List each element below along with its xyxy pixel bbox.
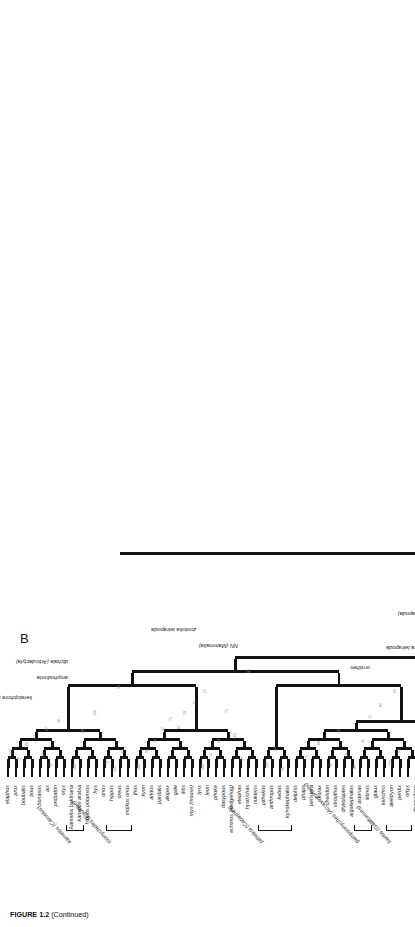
- branch-h: [187, 750, 190, 759]
- tip-branch: [351, 768, 354, 777]
- tip-branch: [327, 768, 330, 777]
- figure-caption: FIGURE 1.2 (Continued): [10, 910, 89, 919]
- tip-branch: [175, 768, 178, 777]
- branch-h: [99, 732, 102, 741]
- branch-h: [175, 759, 178, 768]
- support-value: 52: [204, 689, 208, 693]
- branch-h: [379, 750, 382, 759]
- support-value: 99: [50, 763, 54, 767]
- tip-label: pardalis: [157, 785, 162, 804]
- branch-h: [227, 732, 230, 741]
- branch-h: [191, 759, 194, 768]
- tip-branch: [271, 768, 274, 777]
- branch-h: [55, 759, 58, 768]
- tip-label: boubalis: [21, 785, 26, 805]
- branch-h: [167, 759, 170, 768]
- branch-h: [339, 741, 342, 750]
- branch-h: [107, 750, 110, 759]
- backbone-v: [235, 656, 415, 659]
- tip-label: arktos: [149, 785, 154, 800]
- tip-branch: [191, 768, 194, 777]
- branch-h: [399, 759, 402, 768]
- tip-label: chelidon: [325, 785, 330, 805]
- outgroup-connector: [120, 552, 415, 555]
- clade-label: NN (Mammalia): [199, 643, 238, 649]
- branch-h: [211, 741, 214, 750]
- tip-branch: [95, 768, 98, 777]
- support-value: 93: [274, 747, 278, 751]
- clade-label: amphodonta: [37, 675, 68, 681]
- figure-caption-text: (Continued): [51, 910, 89, 919]
- branch-h: [83, 741, 86, 750]
- support-value: 94: [330, 763, 334, 767]
- tip-branch: [383, 768, 386, 777]
- branch-h: [7, 759, 10, 768]
- branch-h: [39, 759, 42, 768]
- tip-branch: [143, 768, 146, 777]
- tip-label: prox: [13, 785, 18, 796]
- support-value: 85: [380, 703, 384, 707]
- branch-h: [119, 759, 122, 768]
- support-value: 97: [46, 727, 50, 731]
- branch-h: [151, 759, 154, 768]
- support-value: 96: [282, 767, 286, 771]
- tip-branch: [263, 768, 266, 777]
- backbone-h: [195, 687, 198, 732]
- branch-h: [411, 750, 414, 759]
- branch-h: [315, 750, 318, 759]
- tip-branch: [127, 768, 130, 777]
- tip-label: delphis: [293, 785, 298, 802]
- branch-h: [407, 759, 410, 768]
- group-bracket: [66, 825, 84, 831]
- tip-branch: [343, 768, 346, 777]
- branch-h: [59, 750, 62, 759]
- support-value: 63: [234, 733, 238, 737]
- tip-label: oryx: [61, 785, 66, 795]
- branch-h: [127, 759, 130, 768]
- branch-h: [31, 759, 34, 768]
- tip-branch: [47, 768, 50, 777]
- support-value: 100: [114, 766, 118, 772]
- branch-h: [283, 750, 286, 759]
- tip-branch: [167, 768, 170, 777]
- branch-h: [307, 741, 310, 750]
- support-value: 78: [338, 729, 342, 733]
- tip-label: kyon: [141, 785, 146, 796]
- branch-h: [331, 750, 334, 759]
- tip-branch: [39, 768, 42, 777]
- support-value: 91: [398, 749, 402, 753]
- branch-h: [343, 759, 346, 768]
- panel-letter: B: [20, 631, 29, 646]
- support-value: 100: [42, 752, 46, 758]
- branch-v: [356, 720, 415, 723]
- branch-h: [363, 750, 366, 759]
- support-value: 64: [218, 739, 222, 743]
- branch-h: [171, 750, 174, 759]
- clade-label: zootoka tetrapoda: [151, 627, 196, 633]
- tip-branch: [215, 768, 218, 777]
- group-bracket: [386, 825, 412, 831]
- tip-branch: [391, 768, 394, 777]
- tip-label: perdix: [397, 785, 402, 800]
- clade-label: ornithes: [350, 665, 370, 671]
- branch-h: [255, 759, 258, 768]
- support-value: 82: [248, 669, 252, 673]
- branch-h: [231, 759, 234, 768]
- tip-label: hys: [93, 785, 98, 793]
- tip-label: nukteris: [253, 785, 258, 804]
- tip-label: elaphos: [5, 785, 10, 804]
- clade-label: dichala (Artiodactyla): [16, 659, 68, 665]
- branch-h: [371, 741, 374, 750]
- branch-h: [247, 759, 250, 768]
- tip-branch: [375, 768, 378, 777]
- tip-label: hippos: [109, 785, 114, 801]
- branch-h: [235, 750, 238, 759]
- tip-label: probaton: [53, 785, 58, 806]
- tip-label: aigokephalos: [349, 785, 354, 817]
- branch-h: [79, 759, 82, 768]
- branch-h: [183, 759, 186, 768]
- branch-h: [27, 750, 30, 759]
- tip-label: hystrichas: [245, 785, 250, 809]
- support-value: 99: [242, 757, 246, 761]
- support-value: 100: [26, 742, 30, 748]
